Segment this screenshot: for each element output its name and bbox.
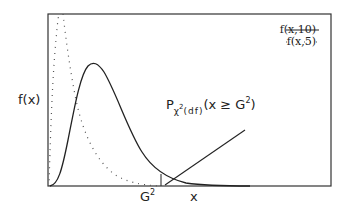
prob-p: P — [166, 97, 174, 112]
prob-sub-sup: 2 — [179, 103, 183, 111]
legend-label-f-x-5: f(x,5) — [287, 36, 316, 47]
y-axis-label: f(x) — [18, 92, 40, 107]
g2-base: G — [140, 189, 150, 204]
prob-subscript: χ2(df) — [174, 106, 204, 116]
probability-annotation: Pχ2(df)(x ≥ G2) — [166, 96, 256, 112]
prob-open: (x ≥ G — [203, 97, 245, 112]
curve-f-x-5 — [49, 14, 160, 186]
prob-sub-df: (df) — [184, 106, 204, 116]
g2-label: G2 — [140, 188, 155, 204]
g2-sup: 2 — [150, 188, 155, 197]
curve-f-x-10 — [50, 63, 250, 186]
legend-label-f-x-10: f(x,10) — [280, 24, 316, 35]
x-axis-label: x — [190, 189, 198, 204]
prob-close: ) — [251, 97, 256, 112]
probability-pointer-line — [165, 130, 245, 185]
